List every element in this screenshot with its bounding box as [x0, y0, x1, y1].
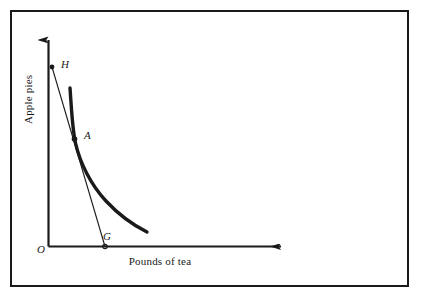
origin-label: O [37, 244, 45, 255]
axes-group [49, 40, 282, 247]
point-label-h: H [61, 59, 69, 70]
point-marker-a [72, 136, 78, 142]
point-label-g: G [103, 231, 111, 242]
x-axis-label: Pounds of tea [110, 255, 210, 267]
figure-root: Apple pies Pounds of tea H A G O [0, 0, 421, 299]
indifference-curve [70, 88, 147, 232]
y-axis-label: Apple pies [22, 34, 34, 124]
point-label-a: A [84, 130, 91, 141]
economics-diagram-svg [0, 0, 421, 299]
point-marker-h [50, 65, 55, 70]
